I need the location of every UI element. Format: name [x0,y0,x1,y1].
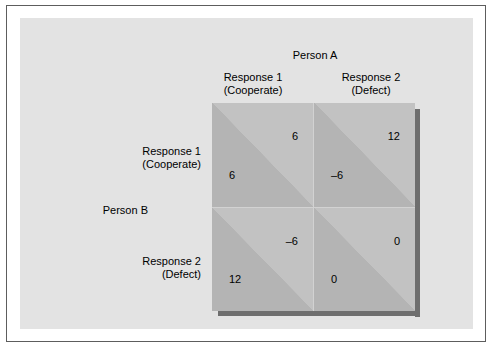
diagonal-split [212,208,313,312]
payoff-person-a: 12 [388,130,400,142]
diagonal-split [314,208,415,312]
column-header-response-2: Response 2 (Defect) [316,71,426,97]
matrix-container: 6 6 12 –6 –6 12 0 0 [212,103,415,311]
diagonal-split [314,103,415,207]
figure-panel: Person A Response 1 (Cooperate) Response… [20,18,473,329]
column-header-response-1: Response 1 (Cooperate) [198,71,308,97]
column-axis-title: Person A [206,49,424,62]
matrix-drop-shadow-bottom [218,311,420,316]
diagonal-split [212,103,313,207]
row-header-response-2: Response 2 (Defect) [66,255,201,281]
payoff-person-b: 0 [331,273,337,285]
payoff-person-a: 6 [292,130,298,142]
payoff-person-b: –6 [331,169,343,181]
row-header-response-1: Response 1 (Cooperate) [66,145,201,171]
matrix-cell-cooperate-defect: 12 –6 [314,103,415,207]
matrix-cell-defect-cooperate: –6 12 [212,208,313,312]
payoff-person-a: 0 [394,235,400,247]
payoff-matrix-grid: 6 6 12 –6 –6 12 0 0 [212,103,415,311]
matrix-cell-defect-defect: 0 0 [314,208,415,312]
matrix-cell-cooperate-cooperate: 6 6 [212,103,313,207]
payoff-matrix-figure: Person A Response 1 (Cooperate) Response… [0,0,492,348]
payoff-person-a: –6 [286,235,298,247]
payoff-person-b: 12 [229,273,241,285]
row-axis-title: Person B [38,204,148,217]
matrix-drop-shadow-right [415,109,420,317]
payoff-person-b: 6 [229,169,235,181]
